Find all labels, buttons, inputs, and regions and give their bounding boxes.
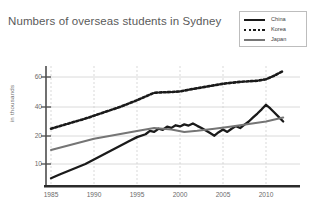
data-series-layer xyxy=(51,71,283,178)
series-line-korea xyxy=(51,71,283,129)
chart-figure: Numbers of overseas students in Sydney C… xyxy=(0,0,314,212)
plot-area xyxy=(0,0,314,212)
